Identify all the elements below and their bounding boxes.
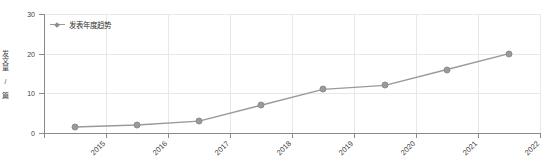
data-point-2017 xyxy=(196,118,203,125)
legend-label: 发表年度趋势 xyxy=(69,19,111,30)
data-point-2018 xyxy=(258,102,265,109)
legend-marker-icon xyxy=(50,21,65,28)
data-point-2022 xyxy=(506,50,513,57)
line-chart: 30 20 10 0 发文量 / 篇 2015 2016 2017 2018 2… xyxy=(0,0,552,168)
data-point-2020 xyxy=(382,82,389,89)
data-point-2021 xyxy=(444,66,451,73)
series-line-publication-trend xyxy=(75,54,509,127)
chart-legend: 发表年度趋势 xyxy=(50,19,111,30)
data-point-2015 xyxy=(72,124,79,131)
data-point-2019 xyxy=(320,86,327,93)
data-point-2016 xyxy=(134,122,141,129)
